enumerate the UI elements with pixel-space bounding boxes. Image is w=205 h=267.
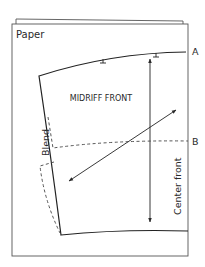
blend-label: Blend xyxy=(40,129,51,156)
center-front-label: Center front xyxy=(172,157,183,215)
point-b-label: B xyxy=(192,136,199,147)
paper-label: Paper xyxy=(16,29,45,40)
front-paper-sheet xyxy=(12,24,188,256)
pattern-title: MIDRIFF FRONT xyxy=(70,94,133,103)
point-a-label: A xyxy=(192,46,199,57)
midriff-front-diagram: Paper MIDRIFF FRONT A B Blend Center fro… xyxy=(0,0,205,267)
